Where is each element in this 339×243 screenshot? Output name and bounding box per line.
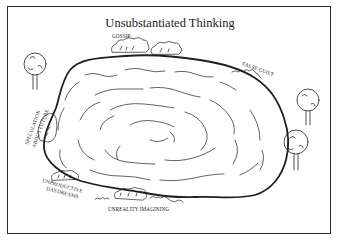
tree-icon: [24, 53, 46, 89]
tree-icon: [297, 89, 319, 125]
water-ripples: [58, 69, 264, 181]
gossip-bushes: [112, 38, 182, 54]
lake-illustration: Unsubstantiated Thinking: [0, 0, 339, 243]
label-unreality: UNREALITY IMAGINING: [108, 206, 169, 212]
diagram-title: Unsubstantiated Thinking: [105, 16, 235, 30]
label-gossip: GOSSIP: [112, 33, 130, 39]
lake-outline: [44, 55, 288, 197]
unreality-bushes: [95, 188, 183, 203]
